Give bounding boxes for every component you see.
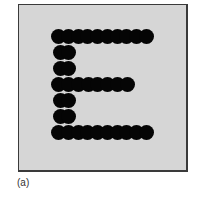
- dot: [139, 125, 154, 140]
- dot: [120, 77, 135, 92]
- dot: [61, 93, 76, 108]
- figure-caption: (a): [17, 177, 29, 188]
- dot: [61, 45, 76, 60]
- dot: [61, 109, 76, 124]
- dot: [139, 29, 154, 44]
- dot: [61, 61, 76, 76]
